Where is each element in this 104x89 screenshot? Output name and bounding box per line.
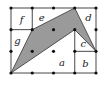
- grid-dot: [31, 6, 34, 9]
- grid-dot: [94, 71, 97, 74]
- grid-dot: [9, 71, 12, 74]
- grid-dot: [73, 71, 76, 74]
- grid-dot: [73, 6, 76, 9]
- diagram-canvas: fedgcab: [0, 0, 104, 89]
- grid-dot: [94, 28, 97, 31]
- region-label-e: e: [39, 12, 45, 23]
- grid-dot: [52, 50, 55, 53]
- grid-dot: [73, 28, 76, 31]
- grid-dot: [9, 6, 12, 9]
- grid-dot: [9, 50, 12, 53]
- grid-dot: [52, 71, 55, 74]
- region-label-a: a: [59, 57, 65, 68]
- grid-dot: [31, 28, 34, 31]
- region-label-c: c: [80, 38, 86, 49]
- region-label-g: g: [14, 35, 20, 46]
- grid-area-diagram: fedgcab: [0, 0, 104, 89]
- grid-dot: [31, 71, 34, 74]
- grid-dot: [94, 50, 97, 53]
- grid-dot: [9, 28, 12, 31]
- region-label-b: b: [82, 58, 88, 69]
- grid-dot: [52, 6, 55, 9]
- region-label-d: d: [85, 12, 91, 23]
- grid-dot: [52, 28, 55, 31]
- grid-dot: [73, 50, 76, 53]
- grid-dot: [31, 50, 34, 53]
- region-label-f: f: [19, 14, 26, 25]
- grid-dot: [94, 6, 97, 9]
